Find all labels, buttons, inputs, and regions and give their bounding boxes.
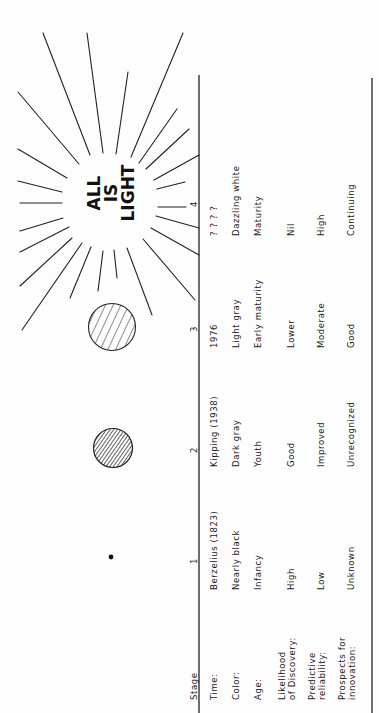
stage4-time: ? ? ? ?	[209, 206, 219, 236]
stage3-color: Light gray	[231, 299, 241, 348]
row-label-time: Time:	[209, 673, 219, 700]
row-label-likelihood: Likelihood of Discovery:	[278, 637, 297, 700]
row-label-age: Age:	[253, 678, 263, 700]
stage-number-2: 2	[189, 447, 199, 453]
stage1-reliability: Low	[316, 571, 326, 590]
stage2-hatched-circle-icon	[94, 429, 133, 468]
stage-header-label: Stage	[189, 672, 199, 700]
stage3-hatched-circle-icon	[89, 304, 136, 351]
stage3-likelihood: Lower	[286, 320, 296, 348]
stage4-prospects: Continuing	[346, 184, 356, 236]
row-label-reliability: Predictive reliability:	[308, 651, 327, 700]
stage2-time: Kipping (1938)	[209, 396, 219, 467]
stage2-reliability: Improved	[316, 422, 326, 467]
stage4-likelihood: Nil	[286, 223, 296, 236]
row-label-reliability-line2: reliability:	[318, 651, 328, 700]
stage1-age: Infancy	[253, 555, 263, 590]
stage3-time: 1976	[209, 324, 219, 348]
stage-number-1: 1	[189, 558, 199, 564]
row-label-likelihood-line2: of Discovery:	[288, 637, 298, 700]
stage1-prospects: Unknown	[346, 546, 356, 590]
stage3-prospects: Good	[346, 323, 356, 348]
stage1-color: Nearly black	[231, 530, 241, 590]
stage4-reliability: High	[316, 214, 326, 236]
stage3-age: Early maturity	[253, 279, 263, 348]
stage2-color: Dark gray	[231, 420, 241, 467]
stage1-likelihood: High	[286, 568, 296, 590]
stage4-age: Maturity	[253, 196, 263, 236]
stage-number-4: 4	[189, 201, 199, 207]
stage2-age: Youth	[253, 441, 263, 467]
stage3-reliability: Moderate	[316, 303, 326, 348]
stage-number-3: 3	[189, 326, 199, 332]
row-label-color: Color:	[231, 671, 241, 700]
figure-artwork	[0, 0, 379, 713]
row-label-prospects: Prospects for innovation:	[338, 637, 357, 700]
stage1-dot-icon	[109, 555, 114, 560]
banner-line-light: LIGHT	[120, 153, 137, 233]
stage1-time: Berzelius (1823)	[209, 511, 219, 590]
stage2-likelihood: Good	[286, 442, 296, 467]
row-label-prospects-line2: innovation:	[348, 637, 358, 700]
table-rules	[199, 75, 372, 713]
document-page: ALL IS LIGHT Stage 1 2 3 4 Time: Color: …	[0, 0, 379, 713]
stage4-color: Dazzling white	[231, 165, 241, 236]
stage2-prospects: Unrecognized	[346, 402, 356, 467]
banner-all-is-light: ALL IS LIGHT	[86, 153, 137, 233]
